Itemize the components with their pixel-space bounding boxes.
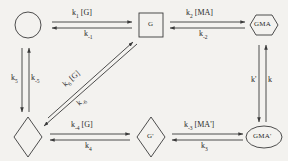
rate-subscript: 2 [190, 13, 193, 19]
edge-bottom-left-forward-label: k-4 [G] [71, 121, 93, 131]
edge-bottom-left-reverse-label: k4 [85, 142, 92, 152]
edge-top-right-forward-label: k2 [MA] [186, 9, 213, 19]
edge-right-vertical-forward-label: k' [251, 76, 256, 84]
rate-subscript: 4 [89, 146, 92, 152]
rate-subscript: -4 [75, 125, 80, 131]
rate-subscript: -3 [188, 125, 193, 131]
rate-subscript: 5 [15, 78, 18, 84]
rate-species: [MA'] [195, 120, 215, 129]
edge-bottom-right-forward-label: k-3 [MA'] [184, 121, 214, 131]
edge-left-vertical-reverse-label: k-5 [31, 74, 40, 84]
rate-symbol: k [268, 75, 272, 84]
rate-species: [G] [81, 8, 92, 17]
rate-subscript: 1 [76, 13, 79, 19]
rate-subscript: -1 [88, 34, 93, 40]
edge-top-left-forward-label: k1 [G] [72, 9, 92, 19]
rate-subscript: 3 [205, 146, 208, 152]
rate-subscript: -5 [35, 78, 40, 84]
edge-bottom-right-reverse-label: k3 [201, 142, 208, 152]
reaction-scheme-diagram: G GMA G' GMA' k1 [G] k-1 k2 [MA] k-2 k-4… [0, 0, 288, 161]
node-ellipse-gmaprime-label: GMA' [253, 133, 271, 140]
edge-left-vertical-forward-label: k5 [11, 74, 18, 84]
node-hexagon-gma-label: GMA [254, 21, 271, 28]
node-square-g-label: G [148, 21, 153, 28]
edge-top-right-reverse-label: k-2 [199, 30, 208, 40]
rate-symbol: k' [251, 75, 256, 84]
rate-species: [G] [82, 120, 93, 129]
rate-subscript: -2 [203, 34, 208, 40]
edge-diagonal-reverse-arrow [44, 44, 137, 126]
rate-species: [MA] [195, 8, 213, 17]
edge-top-left-reverse-label: k-1 [84, 30, 93, 40]
node-circle-shape [15, 12, 41, 38]
scheme-canvas [0, 0, 288, 161]
node-diamond-gprime-label: G' [147, 133, 154, 140]
node-diamond-shape [14, 117, 42, 157]
edge-right-vertical-reverse-label: k [268, 76, 272, 84]
